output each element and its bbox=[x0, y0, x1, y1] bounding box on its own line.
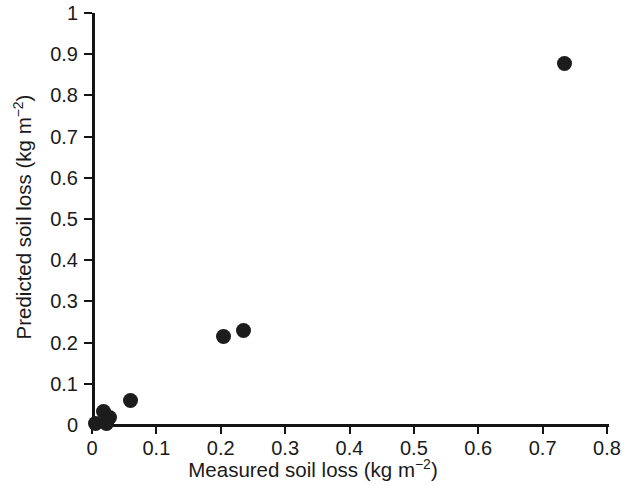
x-tick-label-1: 0.1 bbox=[121, 437, 191, 459]
x-tick-label-2: 0.2 bbox=[186, 437, 256, 459]
y-tick-1 bbox=[84, 383, 92, 385]
data-point bbox=[123, 393, 138, 408]
y-tick-5 bbox=[84, 218, 92, 220]
x-tick-7 bbox=[542, 427, 544, 434]
x-tick-label-4: 0.4 bbox=[315, 437, 385, 459]
y-tick-7 bbox=[84, 136, 92, 138]
y-axis-title: Predicted soil loss (kg m−2) bbox=[12, 7, 36, 427]
x-tick-label-0: 0 bbox=[57, 437, 127, 459]
x-tick-4 bbox=[349, 427, 351, 434]
x-axis-title: Measured soil loss (kg m−2) bbox=[0, 458, 626, 482]
x-axis-title-text: Measured soil loss (kg m bbox=[188, 458, 415, 481]
x-axis-unit-exponent: −2 bbox=[415, 456, 431, 472]
x-tick-label-7: 0.7 bbox=[508, 437, 578, 459]
data-point bbox=[557, 56, 572, 71]
y-tick-6 bbox=[84, 177, 92, 179]
x-tick-label-3: 0.3 bbox=[250, 437, 320, 459]
y-tick-10 bbox=[84, 12, 92, 14]
y-tick-2 bbox=[84, 342, 92, 344]
y-axis-unit-close: ) bbox=[12, 95, 35, 102]
y-axis-title-text: Predicted soil loss (kg m bbox=[12, 117, 35, 339]
data-point bbox=[216, 329, 231, 344]
y-tick-8 bbox=[84, 94, 92, 96]
x-tick-1 bbox=[155, 427, 157, 434]
plot-area bbox=[92, 13, 607, 425]
x-tick-8 bbox=[606, 427, 608, 434]
data-point bbox=[236, 323, 251, 338]
x-tick-2 bbox=[220, 427, 222, 434]
data-point bbox=[99, 416, 114, 431]
x-tick-label-6: 0.6 bbox=[443, 437, 513, 459]
y-axis-unit-exponent: −2 bbox=[10, 101, 26, 117]
y-tick-4 bbox=[84, 259, 92, 261]
x-tick-5 bbox=[413, 427, 415, 434]
x-axis-unit-close: ) bbox=[431, 458, 438, 481]
x-tick-3 bbox=[284, 427, 286, 434]
scatter-plot-figure: 00.10.20.30.40.50.60.70.8 00.10.20.30.40… bbox=[0, 0, 626, 486]
x-tick-6 bbox=[477, 427, 479, 434]
x-tick-label-8: 0.8 bbox=[572, 437, 626, 459]
y-tick-9 bbox=[84, 53, 92, 55]
y-tick-3 bbox=[84, 300, 92, 302]
x-tick-label-5: 0.5 bbox=[379, 437, 449, 459]
